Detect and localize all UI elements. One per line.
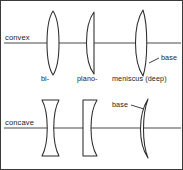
row-label-concave: concave [5,119,34,127]
caption-meniscus-convex: meniscus (deep) [112,75,167,82]
lens-types-diagram: convex base bi- plano- meniscus (deep) b… [0,0,183,170]
callout-leader-concave [131,105,144,109]
caption-plano-convex: plano- [77,75,98,82]
caption-bi-convex: bi- [41,75,49,82]
lens-biconvex [47,11,59,75]
lens-plano-convex [87,12,95,74]
base-label-concave: base [112,101,128,108]
base-label-convex: base [161,54,177,61]
row-label-convex: convex [5,34,30,42]
callout-leader-convex [149,58,159,63]
lens-meniscus-convex [136,10,147,76]
diagram-canvas [1,1,183,170]
